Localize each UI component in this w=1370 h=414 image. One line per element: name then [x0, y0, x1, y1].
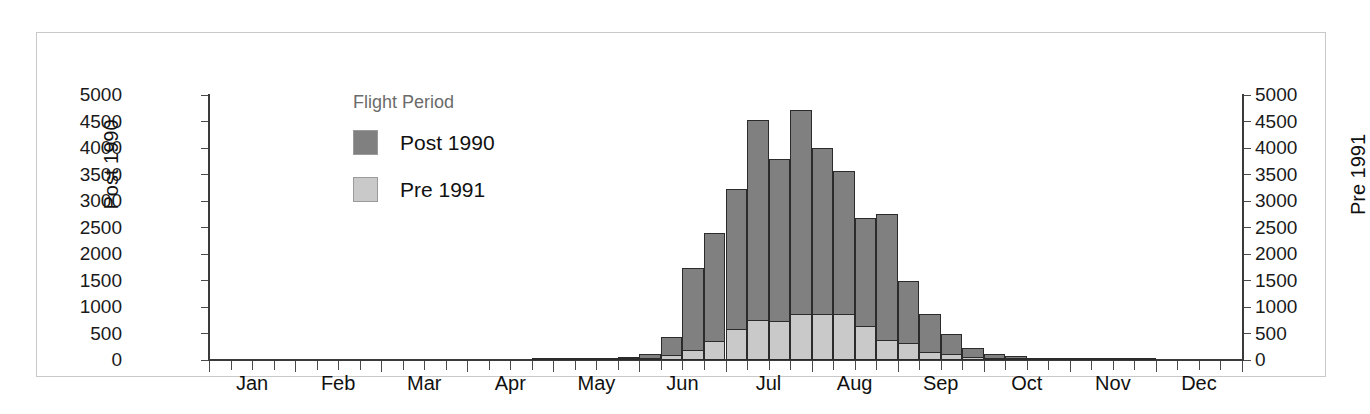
y-tick-left-3000 — [201, 201, 208, 202]
x-tick-11 — [446, 361, 447, 370]
y-tick-label-left-1000: 1000 — [80, 297, 122, 316]
bar-pre-1991-20 — [639, 358, 661, 360]
x-tick-6 — [338, 361, 339, 370]
y-tick-label-right-2500: 2500 — [1255, 218, 1297, 237]
y-tick-label-left-2000: 2000 — [80, 244, 122, 263]
y-tick-right-4000 — [1244, 148, 1251, 149]
x-tick-8 — [381, 361, 382, 372]
x-tick-9 — [403, 361, 404, 370]
bar-pre-1991-21 — [661, 355, 683, 360]
y-axis-left-title: Post 1990 — [100, 85, 123, 245]
y-tick-left-4000 — [201, 148, 208, 149]
bar-pre-1991-25 — [747, 320, 769, 360]
x-tick-48 — [1242, 361, 1243, 372]
x-tick-32 — [898, 361, 899, 372]
x-tick-7 — [360, 361, 361, 370]
x-tick-2 — [252, 361, 253, 370]
bar-pre-1991-42 — [1113, 358, 1135, 360]
x-tick-3 — [274, 361, 275, 370]
x-tick-18 — [596, 361, 597, 370]
y-axis-right-title: Pre 1991 — [1347, 100, 1370, 250]
y-tick-label-left-1500: 1500 — [80, 271, 122, 290]
y-axis-left-line — [208, 94, 210, 361]
bar-pre-1991-19 — [618, 358, 640, 360]
x-tick-41 — [1091, 361, 1092, 370]
y-tick-right-0 — [1244, 360, 1251, 361]
bar-pre-1991-35 — [962, 357, 984, 360]
x-tick-10 — [424, 361, 425, 370]
bar-pre-1991-28 — [812, 314, 834, 360]
x-axis-label-oct: Oct — [984, 373, 1070, 393]
x-tick-28 — [812, 361, 813, 372]
bar-pre-1991-22 — [682, 350, 704, 360]
x-tick-39 — [1048, 361, 1049, 370]
x-axis-label-dec: Dec — [1156, 373, 1242, 393]
bar-pre-1991-38 — [1027, 358, 1049, 360]
legend-title: Flight Period — [353, 93, 495, 111]
y-tick-left-2500 — [201, 227, 208, 228]
y-tick-label-right-4500: 4500 — [1255, 112, 1297, 131]
y-tick-right-1000 — [1244, 307, 1251, 308]
bar-post-1990-22 — [682, 268, 704, 360]
x-tick-38 — [1027, 361, 1028, 370]
x-tick-46 — [1199, 361, 1200, 370]
chart-frame: 0500100015002000250030003500400045005000… — [36, 32, 1326, 377]
x-tick-34 — [941, 361, 942, 370]
x-axis-label-sep: Sep — [898, 373, 984, 393]
legend-label-pre-1991: Pre 1991 — [400, 179, 485, 200]
x-axis-label-mar: Mar — [381, 373, 467, 393]
x-tick-45 — [1177, 361, 1178, 370]
y-tick-left-1500 — [201, 280, 208, 281]
legend-item-post-1990: Post 1990 — [353, 130, 495, 155]
x-tick-29 — [833, 361, 834, 370]
x-tick-19 — [618, 361, 619, 370]
legend: Flight Period Post 1990 Pre 1991 — [353, 93, 495, 224]
y-tick-right-4500 — [1244, 121, 1251, 122]
x-axis-label-nov: Nov — [1070, 373, 1156, 393]
x-tick-25 — [747, 361, 748, 370]
x-tick-13 — [489, 361, 490, 370]
x-tick-23 — [704, 361, 705, 370]
bar-pre-1991-29 — [833, 314, 855, 360]
bar-pre-1991-31 — [876, 340, 898, 360]
bar-pre-1991-43 — [1134, 358, 1156, 360]
y-tick-left-0 — [201, 360, 208, 361]
x-tick-42 — [1113, 361, 1114, 370]
y-tick-label-left-0: 0 — [111, 350, 122, 369]
y-tick-right-1500 — [1244, 280, 1251, 281]
x-tick-44 — [1156, 361, 1157, 372]
x-tick-0 — [209, 361, 210, 372]
x-axis-label-jun: Jun — [639, 373, 725, 393]
y-tick-right-2000 — [1244, 254, 1251, 255]
y-tick-label-right-2000: 2000 — [1255, 244, 1297, 263]
x-axis-label-feb: Feb — [295, 373, 381, 393]
bar-pre-1991-33 — [919, 352, 941, 360]
x-tick-36 — [984, 361, 985, 372]
bar-pre-1991-36 — [984, 358, 1006, 360]
y-tick-left-1000 — [201, 307, 208, 308]
x-tick-43 — [1134, 361, 1135, 370]
y-tick-right-2500 — [1244, 227, 1251, 228]
bar-pre-1991-34 — [941, 354, 963, 360]
y-tick-left-3500 — [201, 174, 208, 175]
x-tick-37 — [1005, 361, 1006, 370]
y-tick-left-4500 — [201, 121, 208, 122]
x-tick-31 — [876, 361, 877, 370]
bar-pre-1991-37 — [1005, 358, 1027, 360]
bar-pre-1991-24 — [726, 329, 748, 360]
y-tick-label-right-4000: 4000 — [1255, 138, 1297, 157]
bar-pre-1991-41 — [1091, 358, 1113, 360]
x-tick-14 — [510, 361, 511, 370]
x-tick-33 — [919, 361, 920, 370]
y-tick-label-left-500: 500 — [90, 324, 122, 343]
x-axis-label-aug: Aug — [812, 373, 898, 393]
bar-pre-1991-39 — [1048, 358, 1070, 360]
x-tick-5 — [317, 361, 318, 370]
bar-pre-1991-16 — [553, 358, 575, 360]
x-tick-15 — [532, 361, 533, 370]
bar-pre-1991-26 — [769, 321, 791, 360]
x-tick-4 — [295, 361, 296, 372]
x-tick-47 — [1220, 361, 1221, 370]
y-tick-label-right-0: 0 — [1255, 350, 1266, 369]
y-tick-left-2000 — [201, 254, 208, 255]
